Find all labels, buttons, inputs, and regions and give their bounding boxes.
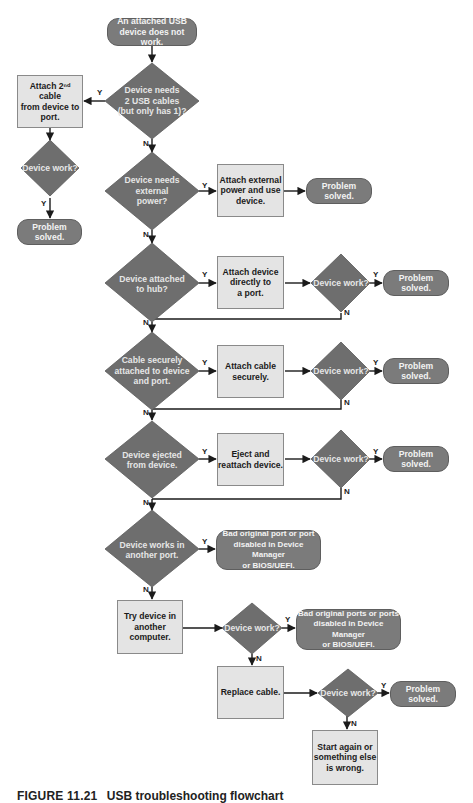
edge-label-d2-no: N (143, 230, 149, 239)
edge-label-c5-yes: Y (373, 447, 378, 456)
process-attach-cable-securely: Attach cable securely. (217, 345, 284, 398)
edge-label-c3-yes: Y (373, 270, 378, 279)
outcome-d5-solved: Problem solved. (383, 446, 449, 472)
process-eject-reattach: Eject and reattach device. (217, 433, 284, 486)
outcome-left-solved: Problem solved. (17, 219, 82, 245)
decision-d1-label: Device needs 2 USB cables (but only has … (107, 80, 197, 122)
edge-label-d3-no: N (143, 318, 149, 327)
decision-d5-label: Device ejected from device. (107, 446, 197, 474)
check-c4-label: Device work? (309, 365, 373, 377)
process-try-another-computer: Try device in another computer. (117, 600, 183, 654)
edge-label-c5-no: N (344, 487, 350, 496)
edge-label-c4-no: N (344, 398, 350, 407)
outcome-d3-solved: Problem solved. (383, 270, 449, 296)
edge-label-d5-no: N (143, 498, 149, 507)
edge-label-d1-yes: Y (97, 88, 102, 97)
outcome-d2-solved: Problem solved. (306, 178, 372, 204)
check-left-label: Device work? (18, 162, 82, 174)
check-c8-label: Device work? (316, 687, 380, 699)
process-attach-second-cable: Attach 2ⁿᵈ cable from device to port. (17, 75, 83, 128)
edge-label-d4-no: N (143, 408, 149, 417)
edge-label-d6-yes: Y (202, 537, 207, 546)
edge-label-d2-yes: Y (202, 181, 207, 190)
process-attach-directly: Attach device directly to a port. (217, 256, 284, 309)
outcome-bad-port: Bad original port or port disabled in De… (216, 530, 321, 570)
edge-label-c7-no: N (256, 654, 262, 663)
edge-label-d3-yes: Y (202, 270, 207, 279)
edge-label-d1-no: N (143, 139, 149, 148)
process-replace-cable: Replace cable. (217, 666, 284, 719)
edge-label-c7-yes: Y (285, 615, 290, 624)
outcome-bad-ports: Bad original ports or ports disabled in … (296, 609, 401, 650)
process-start-again: Start again or something else is wrong. (312, 730, 378, 785)
edge-label-left-yes: Y (41, 199, 46, 208)
figure-number: FIGURE 11.21 (17, 789, 97, 803)
check-c5-label: Device work? (309, 453, 373, 465)
process-attach-external-power: Attach external power and use device. (217, 164, 284, 217)
edge-label-c4-yes: Y (373, 358, 378, 367)
edge-label-c8-no: N (351, 719, 357, 728)
decision-d3-label: Device attached to hub? (107, 270, 197, 298)
edge-label-d6-no: N (143, 585, 149, 594)
figure-caption: FIGURE 11.21 USB troubleshooting flowcha… (17, 789, 283, 803)
decision-d4-label: Cable securely attached to device and po… (105, 350, 199, 392)
check-c7-label: Device work? (220, 622, 284, 634)
edge-label-c3-no: N (344, 308, 350, 317)
decision-d2-label: Device needs external power? (107, 170, 197, 212)
outcome-d4-solved: Problem solved. (383, 358, 449, 384)
edge-label-d5-yes: Y (202, 447, 207, 456)
figure-title: USB troubleshooting flowchart (107, 789, 284, 803)
edge-label-c8-yes: Y (381, 681, 386, 690)
decision-d6-label: Device works in another port. (107, 536, 197, 564)
start-terminator: An attached USB device does not work. (107, 18, 197, 46)
outcome-c8-solved: Problem solved. (390, 681, 456, 707)
edge-label-d4-yes: Y (202, 358, 207, 367)
check-c3-label: Device work? (309, 277, 373, 289)
